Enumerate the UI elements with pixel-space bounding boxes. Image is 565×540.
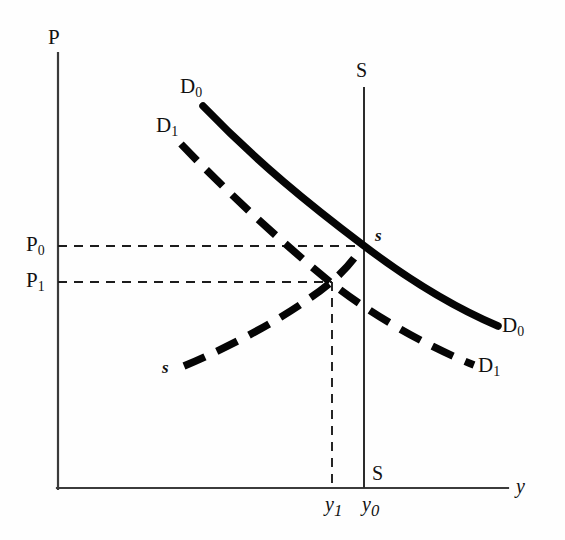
price-tick-p1-sub: 1 (38, 279, 45, 294)
curve-label-d1-left: D1 (156, 115, 178, 139)
supply-demand-figure: P y P0 P1 y1 y0 D0 D1 D0 D1 S S s s (0, 0, 565, 540)
short-run-supply-curve (184, 245, 363, 366)
quantity-tick-y1: y1 (325, 494, 342, 520)
curve-label-d0-right-sub: 0 (517, 324, 524, 339)
curve-label-d0-right: D0 (502, 315, 524, 339)
demand-curve-d1 (181, 144, 474, 365)
price-tick-p0-base: P (26, 232, 38, 256)
quantity-tick-y0-sub: 0 (371, 501, 379, 520)
curve-label-d1-right: D1 (478, 355, 500, 379)
curve-label-d0-right-base: D (502, 313, 517, 337)
supply-label-bottom: S (372, 463, 383, 483)
equilibrium-point-label: s (375, 227, 382, 244)
quantity-tick-y0: y0 (362, 494, 379, 520)
curve-label-d0-left: D0 (180, 76, 202, 100)
curve-label-d1-left-base: D (156, 113, 171, 137)
figure-canvas (0, 0, 565, 540)
price-tick-p1: P1 (26, 270, 45, 294)
quantity-tick-y1-base: y (325, 493, 334, 515)
curve-label-d1-left-sub: 1 (171, 124, 178, 139)
x-axis-label: y (516, 476, 525, 496)
quantity-tick-y0-base: y (362, 493, 371, 515)
supply-label-top: S (356, 60, 367, 80)
price-tick-p0-sub: 0 (38, 243, 45, 258)
short-run-supply-start-label: s (162, 359, 169, 376)
curve-label-d0-left-sub: 0 (195, 85, 202, 100)
curve-label-d1-right-base: D (478, 353, 493, 377)
price-tick-p1-base: P (26, 268, 38, 292)
curve-label-d1-right-sub: 1 (493, 364, 500, 379)
y-axis-label: P (48, 27, 60, 48)
price-tick-p0: P0 (26, 234, 45, 258)
curve-label-d0-left-base: D (180, 74, 195, 98)
quantity-tick-y1-sub: 1 (334, 501, 342, 520)
